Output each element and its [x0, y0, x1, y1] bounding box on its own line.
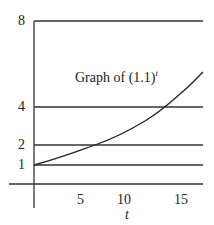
y-tick-4: 4	[18, 100, 25, 114]
y-tick-2: 2	[18, 138, 25, 152]
chart-title-base: Graph of (1.1)	[75, 70, 155, 85]
chart-title-exponent: t	[155, 68, 158, 78]
x-tick-10: 10	[117, 193, 131, 207]
x-tick-5: 5	[77, 193, 84, 207]
y-tick-1: 1	[18, 158, 25, 172]
x-axis-label: t	[125, 208, 129, 222]
chart-title: Graph of (1.1)t	[75, 65, 158, 86]
y-tick-8: 8	[18, 14, 25, 28]
x-tick-15: 15	[174, 193, 188, 207]
